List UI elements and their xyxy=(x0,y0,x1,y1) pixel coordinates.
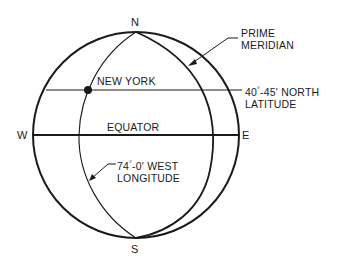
longitude-label-line1: 74°-0' WEST xyxy=(117,158,180,172)
equator-label: EQUATOR xyxy=(107,121,159,133)
prime-meridian-label-line1: PRIME xyxy=(241,27,294,39)
longitude-leader xyxy=(92,164,116,178)
longitude-label-line2: LONGITUDE xyxy=(117,172,180,184)
latitude-label-line1: 40°-45' NORTH xyxy=(245,84,319,98)
globe-diagram xyxy=(0,0,357,268)
latitude-degrees: 40 xyxy=(245,86,257,98)
longitude-label: 74°-0' WEST LONGITUDE xyxy=(117,158,180,184)
new-york-label: NEW YORK xyxy=(97,75,156,87)
south-label: S xyxy=(131,243,139,255)
longitude-degrees: 74 xyxy=(117,160,129,172)
prime-meridian-arrowhead xyxy=(188,59,197,66)
west-label: W xyxy=(17,129,28,141)
north-label: N xyxy=(131,16,139,28)
latitude-label-line2: LATITUDE xyxy=(245,98,319,110)
prime-meridian-label-line2: MERIDIAN xyxy=(241,39,294,51)
new-york-point xyxy=(84,86,92,94)
east-label: E xyxy=(242,129,250,141)
latitude-minutes-direction: -45' NORTH xyxy=(260,86,319,98)
prime-meridian-label: PRIME MERIDIAN xyxy=(241,27,294,51)
prime-meridian-leader xyxy=(191,38,238,64)
longitude-minutes-direction: -0' WEST xyxy=(132,160,178,172)
latitude-label: 40°-45' NORTH LATITUDE xyxy=(245,84,319,110)
